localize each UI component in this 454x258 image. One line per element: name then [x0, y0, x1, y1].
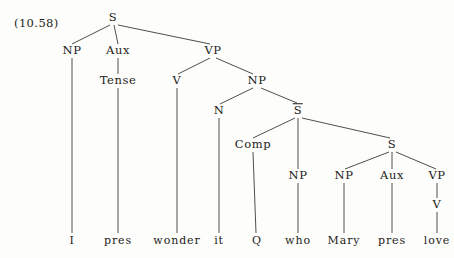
tree-edge-NP2-Sbar [261, 88, 297, 103]
tree-edges [0, 0, 454, 258]
tree-node-NP1: NP [62, 45, 81, 57]
tree-node-S_low: S [388, 139, 396, 151]
tree-node-V1: V [173, 75, 182, 87]
tree-terminal-t_Mary: Mary [328, 235, 361, 246]
tree-edge-Comp1-t_Q [253, 152, 256, 233]
tree-terminal-t_love: love [424, 235, 450, 246]
tree-edge-NP2-N1 [220, 88, 253, 104]
tree-edge-VP1-NP2 [216, 58, 253, 74]
tree-edge-S_root-Aux1 [114, 25, 118, 44]
tree-edge-S_root-VP1 [118, 25, 210, 44]
tree-node-VP1: VP [204, 45, 221, 57]
tree-edge-VP1-V1 [178, 58, 210, 74]
tree-node-Sbar: S [294, 105, 302, 117]
tree-node-NP4: NP [334, 170, 353, 182]
tree-terminal-t_Q: Q [252, 235, 262, 246]
tree-node-Aux1: Aux [106, 45, 130, 57]
tree-node-Comp1: Comp [235, 139, 271, 151]
tree-terminal-t_who: who [285, 235, 311, 246]
tree-terminal-t_it: it [214, 235, 224, 246]
tree-edge-S_root-NP1 [72, 25, 110, 44]
tree-node-Tense1: Tense [100, 75, 137, 87]
tree-node-N1: N [214, 105, 225, 117]
tree-node-VP2: VP [428, 170, 445, 182]
figure-canvas: (10.58) SNPAuxVPTenseVNPNSCompSNPNPAuxVP… [0, 0, 454, 258]
tree-node-NP2: NP [247, 75, 266, 87]
tree-edge-Sbar-Comp1 [253, 118, 295, 138]
figure-caption: (10.58) [14, 16, 59, 30]
tree-terminal-t_wonder: wonder [153, 235, 200, 246]
tree-terminal-t_pres2: pres [378, 235, 406, 246]
tree-edge-S_low-VP2 [396, 152, 436, 169]
tree-node-V2: V [433, 199, 442, 211]
tree-terminal-t_pres1: pres [104, 235, 132, 246]
tree-edge-Sbar-S_low [302, 118, 390, 138]
tree-node-S_root: S [109, 12, 117, 24]
tree-node-Aux2: Aux [380, 170, 404, 182]
tree-terminal-t_I: I [69, 235, 74, 246]
tree-node-NP3: NP [288, 170, 307, 182]
overline-label: S [294, 105, 302, 117]
tree-edge-S_low-NP4 [345, 152, 389, 169]
